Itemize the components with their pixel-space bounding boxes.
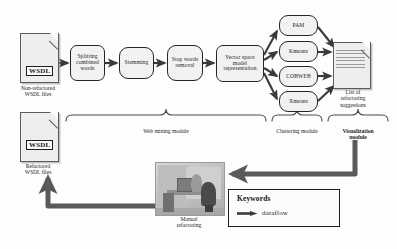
workstation-chair-base [205, 205, 213, 212]
module-label-clustering: Clustering module [261, 128, 333, 134]
clustering-node-pam[interactable]: PAM [279, 15, 318, 36]
non-refactored-wsdl-caption: Non-refactored WSDL files [4, 85, 72, 98]
clustering-node-kmeans[interactable]: Kmeans [279, 41, 318, 62]
clustering-node-xmeans[interactable]: Xmeans [279, 91, 318, 112]
manual-refactoring-caption: Manual refactoring [157, 216, 221, 229]
manual-refactoring-workstation-image [155, 162, 225, 216]
process-node-stop-words-removal[interactable]: Stop words removal [167, 45, 203, 81]
dataflow-arrows-fanout [264, 31, 277, 99]
document-text-lines-icon [336, 50, 365, 70]
refactoring-suggestions-doc [333, 42, 369, 87]
module-label-web-mining: Web mining module [126, 128, 206, 134]
clustering-node-cobweb[interactable]: COBWEB [279, 66, 318, 87]
refactored-wsdl-badge: WSDL [26, 140, 53, 150]
legend-title: Keywords [237, 194, 271, 203]
legend-dataflow-label: dataflow [262, 209, 288, 217]
refactored-wsdl-doc [20, 112, 57, 160]
legend-dataflow-arrow-icon [237, 211, 258, 216]
workstation-tower-icon [163, 193, 175, 212]
refactoring-suggestions-caption: List of refactoring suggestions [325, 89, 381, 108]
dataflow-arrow-feedback-to-manual [232, 140, 355, 174]
process-node-vector-space-model-representation[interactable]: Vector space model representation [216, 45, 264, 82]
refactored-wsdl-caption: Refactored WSDL files [4, 163, 72, 176]
module-braces [66, 109, 388, 121]
process-node-splitting-combined-words[interactable]: Splitting combined words [70, 45, 105, 81]
non-refactored-wsdl-badge: WSDL [26, 66, 53, 76]
process-node-stemming[interactable]: Stemming [119, 47, 154, 79]
workstation-chair-icon [201, 182, 216, 206]
keywords-legend: Keywords dataflow [228, 189, 340, 227]
dataflow-arrow-manual-to-refactored [48, 178, 155, 206]
workstation-monitor-icon [177, 178, 192, 192]
module-label-visualization: Visualization module [328, 128, 388, 141]
